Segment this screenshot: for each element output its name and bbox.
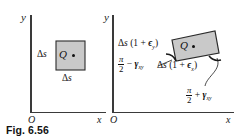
deformed-side-label-vertical: Δs (1 + ϵy) (118, 39, 158, 51)
deformed-side-label-horizontal: Δs (1 + ϵx) (157, 61, 197, 73)
right-point-dot (192, 45, 195, 48)
right-point-label: Q (180, 40, 188, 51)
obtuse-two-denominator: 2 (186, 96, 192, 105)
obtuse-gamma-subscript: xy (206, 95, 211, 101)
obtuse-fraction: π 2 (186, 86, 192, 105)
def-bottom-open-paren: (1 + (169, 60, 187, 70)
def-left-open-paren: (1 + (130, 38, 148, 48)
def-left-s-symbol: s (124, 38, 128, 48)
obtuse-operator: + (195, 90, 200, 100)
right-point-q: Q (180, 39, 188, 51)
acute-operator: − (127, 59, 132, 69)
figure-6-56: y x O Q Δs Δs Fig. 6.56 y x O Q Δs (1 + (0, 0, 242, 139)
def-bottom-close-paren: ) (194, 60, 197, 70)
def-bottom-s-symbol: s (163, 60, 167, 70)
def-left-close-paren: ) (155, 38, 158, 48)
angle-label-acute: π 2 − γxy (118, 55, 144, 74)
acute-gamma-subscript: xy (138, 64, 143, 70)
angle-label-obtuse: π 2 + γxy (186, 86, 212, 105)
acute-two-denominator: 2 (118, 65, 124, 74)
acute-fraction: π 2 (118, 55, 124, 74)
